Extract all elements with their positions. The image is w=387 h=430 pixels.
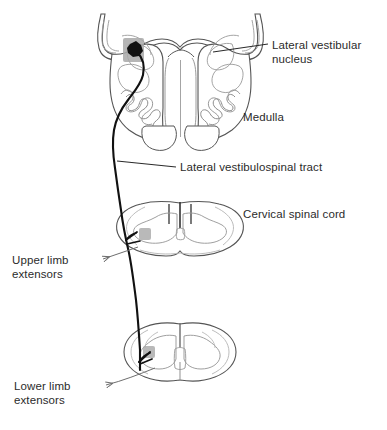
label-lateral-vestibular-nucleus: Lateral vestibular nucleus	[272, 38, 384, 66]
leader-line-lateral-vestibulospinal-tract	[117, 161, 176, 167]
label-medulla: Medulla	[243, 110, 333, 124]
medulla-left-wing-detail-1	[102, 20, 116, 53]
medulla-fourth-ventricle-floor	[168, 50, 194, 57]
vestibulospinal-tract-figure: Lateral vestibular nucleus Medulla Later…	[0, 0, 387, 430]
leader-line-upper-limb-extensors	[103, 247, 138, 259]
medulla-midline-right	[192, 58, 196, 136]
medulla-section	[98, 14, 264, 150]
label-lateral-vestibulospinal-tract: Lateral vestibulospinal tract	[180, 160, 380, 174]
pyramid-right	[185, 126, 220, 150]
label-cervical-spinal-cord: Cervical spinal cord	[243, 207, 383, 221]
medulla-left-wing-detail-2	[107, 20, 119, 51]
upper-limb-motor-nucleus-patch	[139, 228, 151, 240]
pyramid-left	[142, 126, 177, 150]
label-upper-limb-extensors: Upper limb extensors	[12, 253, 102, 281]
medulla-midline-left	[165, 58, 169, 136]
label-lower-limb-extensors: Lower limb extensors	[14, 379, 104, 407]
